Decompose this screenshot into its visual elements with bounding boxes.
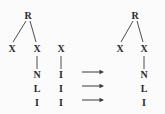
detached-branch-label-i-3: I	[54, 98, 68, 108]
right-tree-root-label: R	[128, 11, 142, 21]
rewrite-arrow-2	[82, 84, 104, 88]
detached-branch-head-label: X	[54, 44, 68, 54]
left-tree-child-1-label: X	[5, 44, 19, 54]
right-tree-child-1-label: X	[113, 44, 127, 54]
right-tree-spine-label-i: I	[137, 98, 151, 108]
left-tree-spine-label-i: I	[30, 98, 44, 108]
detached-branch-label-i-2: I	[54, 84, 68, 94]
tree-transformation-diagram: R X X N L I X I I I R X X N L I	[0, 0, 165, 114]
left-branch-root-to-x2	[30, 21, 36, 42]
left-tree-spine-label-n: N	[30, 70, 44, 80]
rewrite-arrow-3	[82, 98, 104, 102]
right-branch-root-to-x2	[137, 21, 143, 42]
detached-branch-label-i-1: I	[54, 70, 68, 80]
rewrite-arrow-1	[82, 70, 104, 74]
left-tree-spine-label-l: L	[30, 84, 44, 94]
left-tree-child-2-label: X	[30, 44, 44, 54]
right-tree-child-2-label: X	[137, 44, 151, 54]
right-branch-root-to-x1	[121, 21, 133, 42]
left-branch-root-to-x1	[13, 21, 26, 42]
right-tree-spine-label-n: N	[137, 70, 151, 80]
right-tree-spine-label-l: L	[137, 84, 151, 94]
left-tree-root-label: R	[21, 11, 35, 21]
